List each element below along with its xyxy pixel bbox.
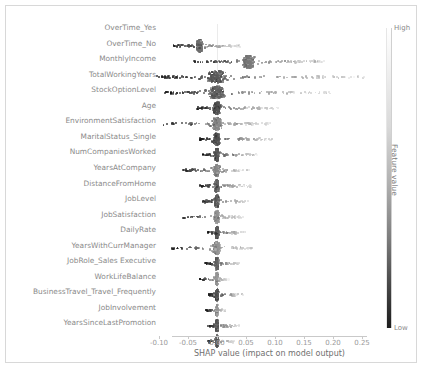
shap-point — [226, 169, 228, 171]
shap-point — [319, 91, 321, 93]
shap-point — [229, 184, 231, 186]
shap-point — [179, 92, 181, 94]
feature-label: MonthlyIncome — [0, 55, 156, 62]
shap-point — [257, 63, 259, 65]
shap-point — [353, 76, 355, 78]
shap-point — [205, 107, 207, 109]
shap-point — [176, 77, 178, 79]
shap-point — [251, 59, 253, 61]
shap-point — [183, 169, 185, 171]
shap-point — [218, 107, 220, 109]
shap-point — [240, 231, 242, 233]
figure-frame: SHAP value (impact on model output) High… — [5, 5, 417, 363]
shap-point — [227, 154, 229, 156]
shap-point — [200, 44, 202, 46]
shap-point — [202, 154, 204, 156]
shap-point — [205, 309, 207, 311]
shap-point — [216, 259, 218, 261]
shap-point — [218, 85, 220, 87]
shap-point — [350, 76, 352, 78]
shap-point — [220, 310, 222, 312]
shap-point — [215, 320, 217, 322]
shap-point — [226, 46, 228, 48]
shap-point — [222, 294, 224, 296]
colorbar-title: Feature value — [390, 144, 399, 196]
shap-point — [236, 123, 238, 125]
shap-point — [216, 296, 218, 298]
shap-point — [205, 123, 207, 125]
shap-point — [202, 61, 204, 63]
shap-point — [202, 138, 204, 140]
shap-point — [175, 76, 177, 78]
shap-point — [318, 76, 320, 78]
shap-point — [231, 61, 233, 63]
shap-point — [217, 46, 219, 48]
shap-point — [233, 123, 235, 125]
shap-point — [253, 155, 255, 157]
shap-point — [232, 154, 234, 156]
feature-label: OverTime_No — [0, 40, 156, 47]
x-tick-label: 0.20 — [325, 339, 341, 347]
shap-point — [212, 251, 214, 253]
x-tick-label: -0.05 — [179, 339, 197, 347]
shap-point — [282, 91, 284, 93]
shap-point — [242, 154, 244, 156]
shap-point — [208, 309, 210, 311]
shap-point — [279, 76, 281, 78]
shap-point — [224, 246, 226, 248]
shap-point — [218, 70, 220, 72]
shap-point — [216, 313, 218, 315]
shap-point — [253, 107, 255, 109]
shap-point — [181, 122, 183, 124]
feature-label: YearsSinceLastPromotion — [0, 319, 156, 326]
shap-point — [240, 123, 242, 125]
feature-label: MaritalStatus_Single — [0, 133, 156, 140]
shap-point — [183, 76, 185, 78]
shap-point — [190, 45, 192, 47]
feature-label: JobSatisfaction — [0, 211, 156, 218]
shap-point — [204, 89, 206, 91]
shap-point — [261, 76, 263, 78]
shap-point — [363, 76, 365, 78]
shap-point — [231, 325, 233, 327]
shap-summary-figure: SHAP value (impact on model output) High… — [0, 0, 423, 381]
shap-point — [211, 232, 213, 234]
colorbar-low-label: Low — [394, 324, 408, 332]
shap-point — [215, 140, 217, 142]
shap-point — [348, 77, 350, 79]
shap-point — [191, 92, 193, 94]
shap-point — [221, 247, 223, 249]
shap-point — [200, 40, 202, 42]
shap-point — [238, 139, 240, 141]
shap-point — [172, 92, 174, 94]
feature-label: WorkLifeBalance — [0, 273, 156, 280]
shap-point — [211, 263, 213, 265]
shap-point — [218, 128, 220, 130]
colorbar-high-label: High — [394, 24, 410, 32]
shap-point — [244, 231, 246, 233]
shap-point — [268, 122, 270, 124]
shap-point — [323, 60, 325, 62]
shap-point — [225, 75, 227, 77]
shap-point — [221, 127, 223, 129]
shap-point — [226, 138, 228, 140]
shap-point — [207, 123, 209, 125]
shap-point — [238, 153, 240, 155]
shap-point — [234, 324, 236, 326]
shap-point — [217, 217, 219, 219]
shap-point — [179, 77, 181, 79]
shap-point — [237, 263, 239, 265]
feature-label: JobInvolvement — [0, 304, 156, 311]
shap-point — [290, 60, 292, 62]
shap-point — [194, 76, 196, 78]
shap-point — [232, 341, 234, 343]
shap-point — [268, 138, 270, 140]
shap-point — [195, 170, 197, 172]
feature-label: OverTime_Yes — [0, 24, 156, 31]
shap-point — [197, 216, 199, 218]
shap-point — [283, 93, 285, 95]
shap-point — [216, 167, 218, 169]
shap-point — [202, 248, 204, 250]
shap-point — [251, 91, 253, 93]
shap-point — [223, 216, 225, 218]
